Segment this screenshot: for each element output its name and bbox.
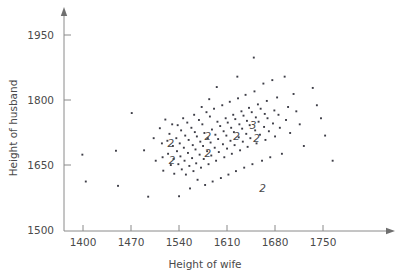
data-point	[230, 140, 232, 142]
data-point	[221, 104, 223, 106]
data-point	[316, 104, 318, 106]
data-point	[189, 188, 191, 190]
data-point	[115, 150, 117, 152]
data-point	[215, 160, 217, 162]
data-point	[271, 79, 273, 81]
data-point	[182, 117, 184, 119]
data-point	[234, 118, 236, 120]
data-point	[201, 123, 203, 125]
data-point	[179, 142, 181, 144]
data-point	[231, 153, 233, 155]
data-point	[214, 147, 216, 149]
data-point	[273, 110, 275, 112]
data-point	[284, 76, 286, 78]
data-point	[276, 97, 278, 99]
data-point	[188, 165, 190, 167]
data-point	[263, 126, 265, 128]
y-tick-label: 1500	[27, 224, 54, 236]
data-point	[332, 160, 334, 162]
data-point	[225, 117, 227, 119]
data-point	[226, 148, 228, 150]
data-point	[254, 90, 256, 92]
data-point	[198, 119, 200, 121]
data-point	[278, 114, 280, 116]
data-point	[253, 57, 255, 59]
data-point	[227, 122, 229, 124]
data-point	[324, 135, 326, 137]
overplot-count-label: 2	[167, 137, 174, 149]
data-point	[190, 127, 192, 129]
data-point	[295, 110, 297, 112]
overplot-count-label: 2	[259, 182, 266, 194]
overplot-count-label: 3	[250, 119, 257, 131]
data-point	[303, 145, 305, 147]
data-point	[299, 123, 301, 125]
overplot-count-label: 2	[253, 132, 260, 144]
data-point	[208, 98, 210, 100]
data-point	[211, 129, 213, 131]
data-point	[209, 116, 211, 118]
data-point	[229, 101, 231, 103]
data-point	[216, 86, 218, 88]
data-point	[81, 154, 83, 156]
data-point	[320, 117, 322, 119]
data-point	[155, 160, 157, 162]
data-point	[272, 123, 274, 125]
data-point	[246, 120, 248, 122]
data-point	[223, 156, 225, 158]
data-point	[264, 113, 266, 115]
data-point	[217, 138, 219, 140]
data-point	[184, 135, 186, 137]
data-point	[177, 163, 179, 165]
data-point	[194, 131, 196, 133]
data-point	[258, 121, 260, 123]
x-axis-arrow	[386, 228, 395, 234]
overplot-count-label: 2	[169, 154, 176, 166]
x-tick-label: 1610	[214, 236, 241, 248]
data-point	[179, 155, 181, 157]
data-point	[265, 139, 267, 141]
data-point	[177, 124, 179, 126]
data-point	[212, 181, 214, 183]
data-point	[268, 130, 270, 132]
data-point	[169, 133, 171, 135]
data-point	[188, 139, 190, 141]
data-point	[222, 143, 224, 145]
data-point	[147, 196, 149, 198]
data-point	[191, 157, 193, 159]
data-point	[251, 111, 253, 113]
overplot-count-label: 2	[233, 130, 240, 142]
data-point	[199, 154, 201, 156]
data-point	[225, 135, 227, 137]
data-point	[279, 127, 281, 129]
data-point	[193, 170, 195, 172]
data-point	[242, 141, 244, 143]
data-point	[180, 129, 182, 131]
data-point	[204, 184, 206, 186]
x-tick-label: 1750	[310, 236, 337, 248]
data-point	[245, 133, 247, 135]
data-points-group	[81, 57, 333, 198]
data-point	[201, 106, 203, 108]
data-point	[162, 170, 164, 172]
data-point	[161, 142, 163, 144]
overplot-count-label: 2	[204, 147, 211, 159]
y-axis-arrow	[61, 7, 67, 16]
data-point	[208, 163, 210, 165]
data-point	[257, 103, 259, 105]
x-tick-label: 1400	[70, 236, 97, 248]
data-point	[171, 123, 173, 125]
data-point	[206, 111, 208, 113]
data-point	[197, 179, 199, 181]
data-point	[287, 106, 289, 108]
x-axis-title: Height of wife	[168, 258, 241, 270]
data-point	[162, 156, 164, 158]
y-tick-label: 1800	[27, 94, 54, 106]
data-point	[267, 117, 269, 119]
data-point	[186, 122, 188, 124]
x-tick-label: 1470	[118, 236, 145, 248]
data-point	[230, 127, 232, 129]
data-point	[195, 162, 197, 164]
data-point	[185, 174, 187, 176]
y-axis-title: Height of husband	[7, 80, 19, 177]
